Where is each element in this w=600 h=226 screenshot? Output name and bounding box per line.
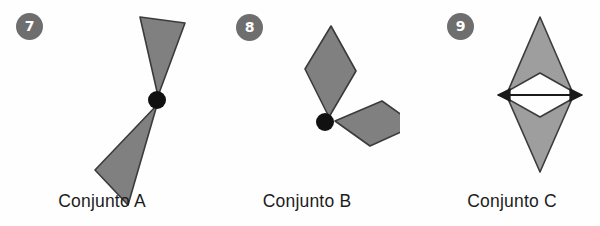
worksheet-page: 7 Conjunto A 8 Conjunto B 9 bbox=[0, 0, 600, 226]
panel-conjunto-a: 7 Conjunto A bbox=[0, 0, 208, 226]
panel-conjunto-b: 8 Conjunto B bbox=[208, 0, 400, 226]
panel-conjunto-c: 9 Conjunto C bbox=[400, 0, 600, 226]
upper-triangle bbox=[140, 17, 185, 96]
lower-triangle bbox=[95, 105, 157, 205]
caption-conjunto-c: Conjunto C bbox=[412, 191, 600, 212]
caption-conjunto-a: Conjunto A bbox=[0, 191, 206, 212]
pivot-dot bbox=[316, 113, 334, 131]
caption-conjunto-b: Conjunto B bbox=[211, 191, 403, 212]
upper-chevron bbox=[508, 17, 572, 91]
lower-chevron bbox=[508, 99, 572, 172]
right-rhombus bbox=[335, 101, 400, 146]
upper-rhombus bbox=[305, 26, 356, 117]
pivot-dot bbox=[148, 91, 166, 109]
